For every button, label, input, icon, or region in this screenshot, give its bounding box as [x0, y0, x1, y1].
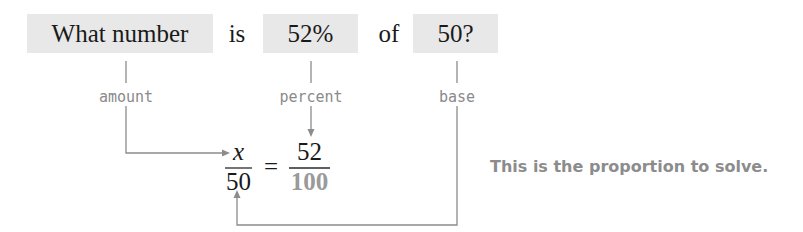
right-denominator: 100 — [287, 168, 332, 196]
connector-arrows — [0, 0, 803, 232]
equals-sign: = — [260, 153, 282, 181]
arrow-down-icon — [308, 129, 315, 137]
proportion-note: This is the proportion to solve. — [490, 157, 768, 176]
right-numerator: 52 — [289, 138, 330, 166]
left-denominator: 50 — [222, 168, 255, 196]
left-numerator: x — [225, 138, 252, 166]
